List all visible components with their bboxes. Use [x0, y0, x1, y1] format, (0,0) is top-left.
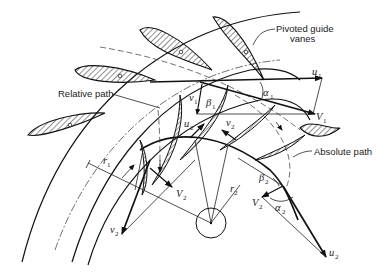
symbol-u2-right: u2 — [329, 247, 339, 261]
svg-text:u: u — [184, 118, 189, 129]
svg-text:β: β — [205, 97, 212, 108]
symbol-v1: v1 — [189, 92, 198, 106]
svg-text:2: 2 — [335, 253, 339, 261]
svg-text:2: 2 — [231, 123, 235, 131]
svg-text:u: u — [312, 66, 317, 77]
svg-text:2: 2 — [259, 203, 263, 211]
guide-vane — [300, 124, 340, 136]
guide-vane — [75, 66, 155, 83]
svg-text:2: 2 — [190, 124, 194, 132]
guide-vane — [213, 17, 264, 80]
relative-path-leader — [112, 94, 160, 108]
svg-text:2: 2 — [183, 194, 187, 202]
svg-text:2: 2 — [115, 230, 119, 238]
svg-text:2: 2 — [234, 189, 238, 197]
left-outlet-triangle — [122, 150, 195, 234]
symbol-r2: r2 — [230, 183, 238, 197]
svg-text:1: 1 — [318, 72, 322, 80]
symbol-V1: V1 — [316, 111, 327, 125]
symbol-V2-left: V2 — [176, 188, 187, 202]
absolute-path-label: Absolute path — [314, 146, 372, 157]
relative-path-label: Relative path — [58, 88, 113, 99]
svg-text:1: 1 — [107, 161, 111, 169]
symbol-r1: r1 — [103, 155, 111, 169]
symbol-beta2: β2 — [258, 172, 269, 186]
turbine-velocity-diagram: Pivoted guide vanes Relative path Absolu… — [0, 0, 388, 272]
svg-text:α: α — [275, 202, 281, 213]
symbol-v2-inner: v2 — [226, 117, 235, 131]
svg-text:β: β — [258, 172, 265, 183]
svg-text:1: 1 — [212, 103, 216, 111]
guide-vanes-label-2: vanes — [290, 33, 316, 44]
symbol-v2-left: v2 — [110, 224, 119, 238]
svg-text:α: α — [263, 87, 269, 98]
guide-vane — [28, 113, 105, 136]
symbol-V2-right: V2 — [252, 197, 263, 211]
svg-text:u: u — [329, 247, 334, 258]
inlet-velocity-triangle — [150, 78, 322, 114]
svg-text:2: 2 — [282, 208, 286, 216]
guide-vane-leader — [253, 29, 275, 45]
svg-text:1: 1 — [323, 117, 327, 125]
absolute-path-leader — [293, 151, 312, 157]
svg-text:2: 2 — [265, 178, 269, 186]
svg-text:1: 1 — [194, 98, 198, 106]
svg-text:1: 1 — [270, 93, 274, 101]
symbol-u2-inner: u2 — [184, 118, 194, 132]
symbol-beta1: β1 — [205, 97, 216, 111]
